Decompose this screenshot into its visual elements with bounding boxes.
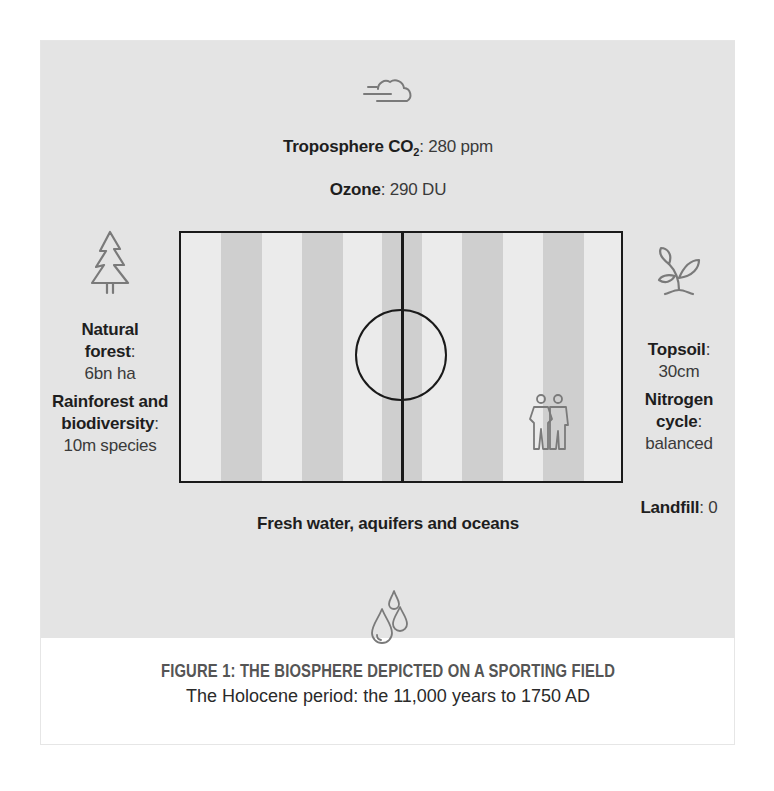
plant-sprout-icon <box>655 246 701 298</box>
cloud-wind-icon <box>363 73 413 107</box>
center-circle <box>355 309 447 401</box>
troposphere-label: Troposphere CO <box>283 137 413 156</box>
natural-forest-line2: forest <box>85 342 131 361</box>
nitrogen-value: balanced <box>623 433 735 455</box>
natural-forest-label: Natural forest: 6bn ha <box>41 319 179 385</box>
cycle-line2: cycle <box>656 412 698 431</box>
figure-title: FIGURE 1: THE BIOSPHERE DEPICTED ON A SP… <box>117 660 658 682</box>
tree-icon <box>88 229 132 295</box>
natural-forest-line1: Natural <box>41 319 179 341</box>
figure-subtitle: The Holocene period: the 11,000 years to… <box>41 686 735 707</box>
field-stripe <box>302 233 343 481</box>
rainforest-line1: Rainforest and <box>41 391 179 413</box>
fresh-water-label: Fresh water, aquifers and oceans <box>41 513 735 535</box>
figure-caption: FIGURE 1: THE BIOSPHERE DEPICTED ON A SP… <box>41 638 735 745</box>
nitrogen-cycle-label: Nitrogen cycle: balanced <box>623 389 735 455</box>
separator: : <box>698 412 703 431</box>
topsoil-text: Topsoil <box>648 340 706 359</box>
right-labels: Topsoil: 30cm Nitrogen cycle: balanced <box>623 339 735 461</box>
ozone-label-text: Ozone <box>330 180 381 199</box>
nitrogen-line1: Nitrogen <box>623 389 735 411</box>
field-stripe <box>221 233 262 481</box>
topsoil-label: Topsoil: 30cm <box>623 339 735 383</box>
troposphere-co2-label: Troposphere CO2: 280 ppm <box>41 136 735 158</box>
rainforest-biodiversity-label: Rainforest and biodiversity: 10m species <box>41 391 179 457</box>
topsoil-value: 30cm <box>623 361 735 383</box>
people-icon <box>528 393 572 453</box>
natural-forest-value: 6bn ha <box>41 363 179 385</box>
separator: : <box>706 340 711 359</box>
separator: : <box>131 342 136 361</box>
ozone-label: Ozone: 290 DU <box>41 179 735 201</box>
left-labels: Natural forest: 6bn ha Rainforest and bi… <box>41 319 179 463</box>
figure: Troposphere CO2: 280 ppm Ozone: 290 DU N… <box>40 40 735 745</box>
field-stripe <box>462 233 503 481</box>
diagram-panel: Troposphere CO2: 280 ppm Ozone: 290 DU N… <box>41 41 735 638</box>
troposphere-value: 280 ppm <box>424 137 493 156</box>
biodiversity-value: 10m species <box>41 435 179 457</box>
sporting-field <box>179 231 623 483</box>
biodiversity-line2: biodiversity <box>61 414 154 433</box>
separator: : <box>154 414 159 433</box>
ozone-value: 290 DU <box>385 180 446 199</box>
